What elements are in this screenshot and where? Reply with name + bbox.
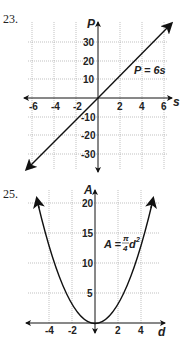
svg-text:-6: -6 bbox=[29, 101, 38, 112]
x-axis-label-d: d bbox=[158, 325, 166, 339]
svg-text:4: 4 bbox=[139, 101, 145, 112]
svg-text:-2: -2 bbox=[68, 325, 77, 336]
y-tick-labels: 20 15 10 5 bbox=[82, 198, 94, 299]
svg-text:20: 20 bbox=[83, 56, 95, 67]
svg-text:A =: A = bbox=[103, 238, 122, 250]
equation-label: P = 6s bbox=[134, 64, 166, 76]
svg-text:4: 4 bbox=[138, 325, 144, 336]
y-axis-label-p: P bbox=[87, 17, 96, 31]
svg-text:-30: -30 bbox=[81, 149, 96, 160]
parabola-arrow-right bbox=[151, 199, 153, 208]
svg-text:-2: -2 bbox=[73, 101, 82, 112]
svg-text:5: 5 bbox=[87, 288, 93, 299]
graph-25: -4 -2 2 4 20 15 10 5 A d A = π 4 d 2 bbox=[26, 183, 166, 339]
svg-text:6: 6 bbox=[161, 101, 167, 112]
y-axis-label-a: A bbox=[83, 183, 93, 197]
svg-text:-4: -4 bbox=[51, 101, 60, 112]
grid-lines bbox=[28, 190, 160, 323]
graph-23: -6 -4 -2 2 4 6 30 20 10 -10 -20 -30 P s … bbox=[24, 17, 180, 172]
graphs-canvas: -6 -4 -2 2 4 6 30 20 10 -10 -20 -30 P s … bbox=[0, 0, 181, 349]
svg-text:-4: -4 bbox=[45, 325, 54, 336]
svg-text:4: 4 bbox=[122, 244, 128, 253]
svg-text:-10: -10 bbox=[81, 112, 96, 123]
svg-text:2: 2 bbox=[117, 101, 123, 112]
svg-text:30: 30 bbox=[83, 37, 95, 48]
x-axis-label-s: s bbox=[173, 95, 180, 109]
svg-text:15: 15 bbox=[82, 228, 94, 239]
svg-text:2: 2 bbox=[115, 325, 121, 336]
svg-text:10: 10 bbox=[83, 74, 95, 85]
svg-text:20: 20 bbox=[82, 198, 94, 209]
svg-text:10: 10 bbox=[82, 258, 94, 269]
svg-text:2: 2 bbox=[135, 236, 140, 243]
equation-label: A = π 4 d 2 bbox=[103, 234, 140, 253]
svg-text:-20: -20 bbox=[81, 130, 96, 141]
svg-text:d: d bbox=[129, 238, 136, 250]
parabola-arrow-left bbox=[37, 199, 39, 208]
